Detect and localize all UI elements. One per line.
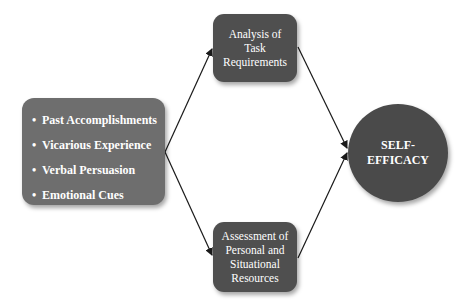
assessment-of-resources-box: Assessment of Personal and Situational R… <box>213 222 297 292</box>
analysis-label: Analysis of Task Requirements <box>220 27 290 69</box>
self-efficacy-circle: SELF-EFFICACY <box>348 104 448 202</box>
arrow-sources-to-analysis <box>165 49 212 152</box>
bullet-icon: • <box>32 133 42 158</box>
sources-box: •Past Accomplishments •Vicarious Experie… <box>22 98 165 205</box>
bullet-icon: • <box>32 158 42 183</box>
arrow-assessment-to-self-efficacy <box>298 153 347 258</box>
self-efficacy-label: SELF-EFFICACY <box>365 138 431 168</box>
source-item: •Verbal Persuasion <box>32 158 165 183</box>
bullet-icon: • <box>32 108 42 133</box>
source-item: •Past Accomplishments <box>32 108 165 133</box>
source-item: •Vicarious Experience <box>32 133 165 158</box>
source-item: •Emotional Cues <box>32 183 165 208</box>
arrow-sources-to-assessment <box>165 152 212 255</box>
analysis-of-task-requirements-box: Analysis of Task Requirements <box>213 14 297 82</box>
arrow-analysis-to-self-efficacy <box>298 47 347 148</box>
bullet-icon: • <box>32 183 42 208</box>
sources-list: •Past Accomplishments •Vicarious Experie… <box>22 98 165 208</box>
assessment-label: Assessment of Personal and Situational R… <box>216 229 294 285</box>
